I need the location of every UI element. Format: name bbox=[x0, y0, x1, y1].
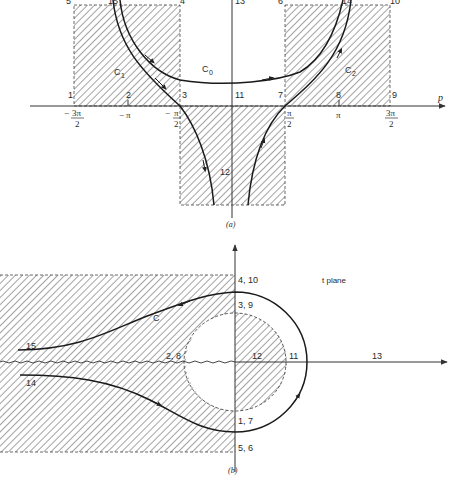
label-2: 2 bbox=[126, 90, 131, 100]
label-8: 8 bbox=[336, 90, 341, 100]
label-3-9: 3, 9 bbox=[238, 300, 253, 310]
tick-label-minus-pi-2: − π 2 bbox=[165, 108, 181, 129]
label-14: 14 bbox=[26, 378, 36, 388]
svg-text:π: π bbox=[126, 110, 131, 120]
svg-text:π: π bbox=[287, 108, 292, 118]
label-3: 3 bbox=[182, 90, 187, 100]
label-12: 12 bbox=[252, 351, 262, 361]
svg-text:3π: 3π bbox=[72, 108, 82, 118]
label-c1: C bbox=[114, 67, 121, 77]
label-11: 11 bbox=[289, 351, 298, 361]
label-15: 15 bbox=[26, 341, 36, 351]
tick-label-3pi-2: 3π 2 bbox=[385, 108, 398, 129]
label-4: 4 bbox=[180, 0, 185, 6]
figure-a: 5 15 4 13 6 14 10 1 2 3 11 7 8 9 12 C 1 … bbox=[30, 0, 445, 229]
label-5: 5 bbox=[66, 0, 71, 6]
svg-text:3π: 3π bbox=[386, 108, 396, 118]
svg-text:2: 2 bbox=[287, 119, 292, 129]
label-c1-sub: 1 bbox=[121, 72, 125, 79]
figure-canvas: 5 15 4 13 6 14 10 1 2 3 11 7 8 9 12 C 1 … bbox=[0, 0, 454, 485]
tick-label-minus-3pi-2: − 3π 2 bbox=[64, 108, 84, 129]
tick-label-minus-pi: − π bbox=[119, 110, 131, 120]
label-13: 13 bbox=[235, 0, 245, 6]
tick-label-pi: π bbox=[336, 110, 341, 120]
svg-text:2: 2 bbox=[174, 119, 179, 129]
label-1-7: 1, 7 bbox=[238, 416, 253, 426]
figure-b: 4, 10 3, 9 2, 8 12 11 13 1, 7 5, 6 15 14… bbox=[0, 245, 447, 475]
svg-text:π: π bbox=[336, 110, 341, 120]
label-c0-sub: 0 bbox=[209, 69, 213, 76]
label-c2-sub: 2 bbox=[352, 70, 356, 77]
svg-text:−: − bbox=[119, 110, 124, 120]
label-1: 1 bbox=[68, 90, 73, 100]
label-6: 6 bbox=[278, 0, 283, 6]
caption-a: (a) bbox=[226, 220, 236, 229]
label-2-8: 2, 8 bbox=[166, 351, 181, 361]
tick-label-pi-2: π 2 bbox=[286, 108, 294, 129]
svg-text:2: 2 bbox=[75, 119, 80, 129]
label-c2: C bbox=[345, 65, 352, 75]
label-14: 14 bbox=[342, 0, 352, 6]
svg-text:−: − bbox=[165, 108, 170, 118]
label-11: 11 bbox=[235, 90, 244, 100]
label-9: 9 bbox=[392, 90, 397, 100]
caption-b: (b) bbox=[228, 466, 238, 475]
t-plane-label: t plane bbox=[322, 276, 347, 285]
label-5-6: 5, 6 bbox=[238, 443, 253, 453]
svg-text:π: π bbox=[174, 108, 179, 118]
label-7: 7 bbox=[278, 90, 283, 100]
label-10: 10 bbox=[390, 0, 400, 6]
label-13: 13 bbox=[372, 351, 382, 361]
label-4-10: 4, 10 bbox=[238, 275, 258, 285]
p-axis-label: p bbox=[437, 92, 443, 103]
label-15: 15 bbox=[108, 0, 118, 6]
label-contour-c: C bbox=[153, 313, 160, 323]
svg-text:−: − bbox=[64, 108, 69, 118]
label-12: 12 bbox=[220, 167, 230, 177]
label-c0: C bbox=[202, 64, 209, 74]
svg-text:2: 2 bbox=[389, 119, 394, 129]
